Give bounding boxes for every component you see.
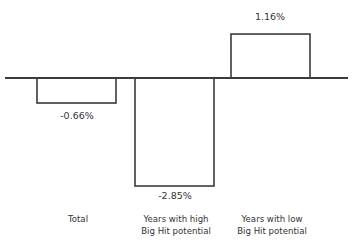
value-label-2: -2.85% (158, 190, 192, 201)
bar-3 (231, 34, 310, 78)
chart-canvas: -0.66%-2.85%1.16% TotalYears with highBi… (0, 0, 355, 249)
category-labels-group: TotalYears with highBig Hit potentialYea… (67, 214, 307, 236)
bar-2 (135, 78, 214, 186)
category-label-line: Years with low (240, 214, 302, 224)
category-label-2: Years with highBig Hit potential (141, 214, 211, 236)
bar-1 (37, 78, 116, 103)
category-label-1: Total (67, 214, 88, 224)
category-label-line: Years with high (142, 214, 208, 224)
category-label-line: Big Hit potential (141, 226, 211, 236)
value-label-1: -0.66% (60, 110, 94, 121)
category-label-line: Total (67, 214, 88, 224)
value-label-3: 1.16% (255, 11, 285, 22)
category-label-3: Years with lowBig Hit potential (237, 214, 307, 236)
category-label-line: Big Hit potential (237, 226, 307, 236)
bar-chart-figure: -0.66%-2.85%1.16% TotalYears with highBi… (0, 0, 355, 249)
